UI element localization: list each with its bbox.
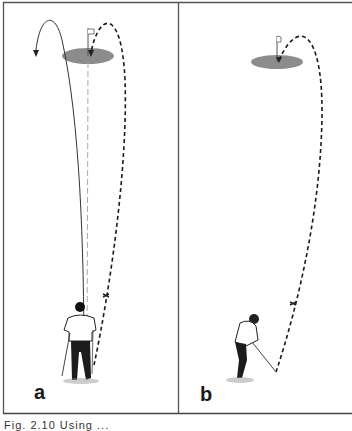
dashed-trajectory-b <box>276 36 322 372</box>
arrowhead-left <box>33 50 39 57</box>
panel-b <box>226 36 322 383</box>
panel-a <box>33 20 125 384</box>
panel-label-a: a <box>34 381 45 404</box>
golfer-behind-figure <box>62 302 99 384</box>
golfer-address-figure <box>226 314 276 383</box>
x-marker-a <box>103 294 109 297</box>
panel-label-b: b <box>200 383 212 406</box>
dashed-trajectory-a <box>91 23 125 365</box>
figure-caption: Fig. 2.10 Using ... <box>4 419 109 431</box>
